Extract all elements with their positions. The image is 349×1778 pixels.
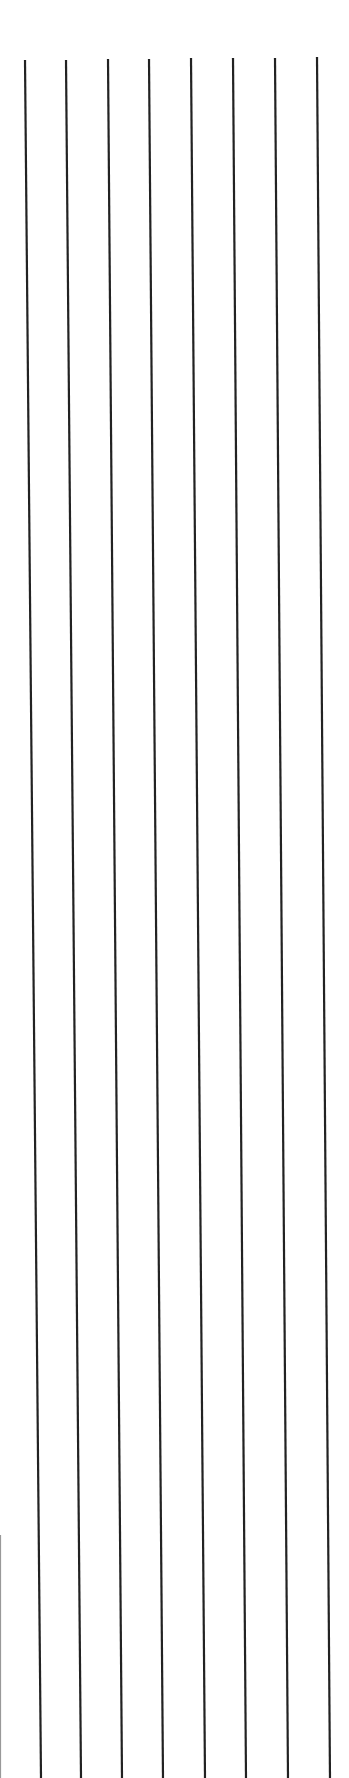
vertical-lines-drawing xyxy=(0,0,349,1778)
vertical-line-2 xyxy=(66,60,81,1778)
vertical-line-6 xyxy=(233,58,246,1778)
vertical-line-1 xyxy=(25,60,41,1778)
vertical-line-3 xyxy=(108,59,122,1778)
vertical-line-5 xyxy=(191,58,205,1778)
vertical-line-4 xyxy=(149,59,163,1778)
vertical-line-8 xyxy=(317,57,330,1778)
vertical-line-7 xyxy=(275,58,288,1778)
